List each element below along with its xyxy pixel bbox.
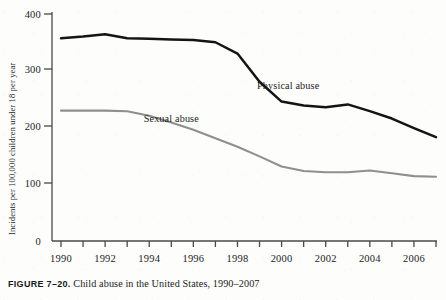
figure-container: Incidents per 100,000 children under 18 … <box>0 0 446 300</box>
y-tick-label: 100 <box>25 178 41 189</box>
x-tick-label: 2006 <box>403 253 425 264</box>
y-axis-title: Incidents per 100,000 children under 18 … <box>7 63 17 235</box>
figure-caption-text: Child abuse in the United States, 1990–2… <box>71 278 260 289</box>
x-tick-label: 2004 <box>359 253 381 264</box>
x-tick-label: 1990 <box>50 253 72 264</box>
x-axis-ticks <box>61 241 436 247</box>
x-tick-label: 1998 <box>227 253 249 264</box>
y-tick-label: 400 <box>25 9 41 20</box>
series-annotations: Physical abuseSexual abuse <box>144 80 320 125</box>
series-line <box>61 34 436 137</box>
series-annotation: Physical abuse <box>257 80 320 91</box>
x-tick-label: 2002 <box>315 253 337 264</box>
figure-caption: FIGURE 7–20. Child abuse in the United S… <box>8 278 438 289</box>
series-annotation: Sexual abuse <box>144 113 200 124</box>
x-tick-label: 1992 <box>94 253 116 264</box>
y-tick-label: 200 <box>25 121 41 132</box>
series-group <box>61 34 436 176</box>
x-tick-label: 1994 <box>138 253 160 264</box>
y-tick-label: 0 <box>36 236 41 247</box>
y-axis-tick-labels: 400 300 200 100 0 <box>25 9 41 247</box>
y-tick-label: 300 <box>25 64 41 75</box>
line-chart: Incidents per 100,000 children under 18 … <box>0 0 446 270</box>
x-tick-label: 1996 <box>182 253 204 264</box>
x-tick-label: 2000 <box>271 253 293 264</box>
x-axis-tick-labels: 199019921994199619982000200220042006 <box>50 253 425 264</box>
figure-number: FIGURE 7–20. <box>8 279 71 289</box>
y-axis-ticks <box>44 14 52 183</box>
series-line <box>61 111 436 177</box>
